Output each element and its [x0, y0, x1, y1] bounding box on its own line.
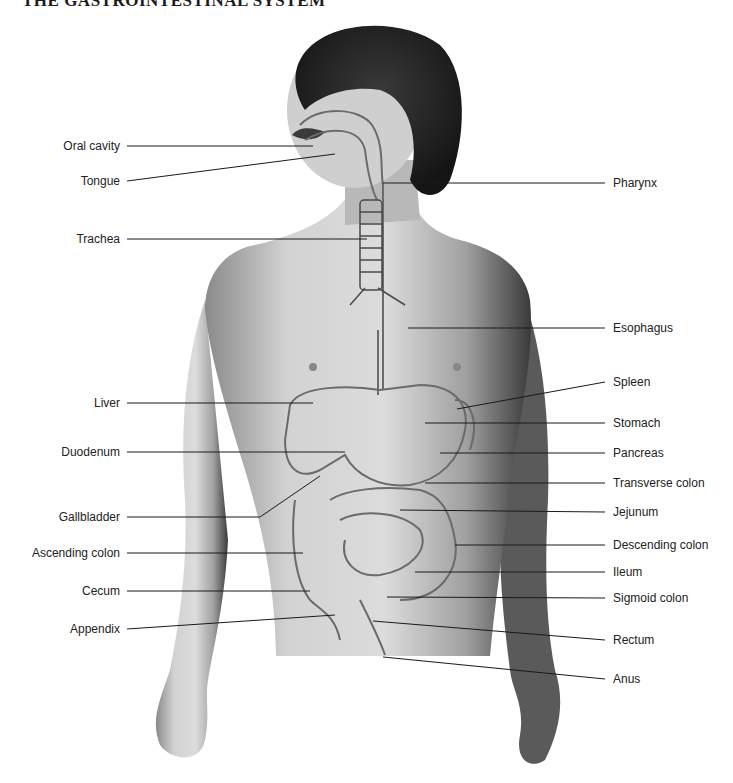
label-pharynx: Pharynx	[613, 176, 657, 190]
anatomy-figure: Oral cavity Tongue Trachea Liver Duodenu…	[0, 0, 733, 783]
label-stomach: Stomach	[613, 416, 660, 430]
label-spleen: Spleen	[613, 375, 650, 389]
label-pancreas: Pancreas	[613, 446, 664, 460]
label-trachea: Trachea	[76, 232, 120, 246]
label-tongue: Tongue	[81, 174, 120, 188]
label-descending-colon: Descending colon	[613, 538, 708, 552]
label-cecum: Cecum	[82, 584, 120, 598]
body-illustration	[0, 0, 733, 783]
label-appendix: Appendix	[70, 622, 120, 636]
label-gallbladder: Gallbladder	[59, 510, 120, 524]
label-liver: Liver	[94, 396, 120, 410]
label-rectum: Rectum	[613, 633, 654, 647]
label-jejunum: Jejunum	[613, 505, 658, 519]
label-oral-cavity: Oral cavity	[63, 139, 120, 153]
label-ileum: Ileum	[613, 565, 642, 579]
label-esophagus: Esophagus	[613, 321, 673, 335]
label-sigmoid-colon: Sigmoid colon	[613, 591, 688, 605]
label-ascending-colon: Ascending colon	[32, 546, 120, 560]
label-anus: Anus	[613, 672, 640, 686]
label-duodenum: Duodenum	[61, 445, 120, 459]
label-transverse-colon: Transverse colon	[613, 476, 705, 490]
